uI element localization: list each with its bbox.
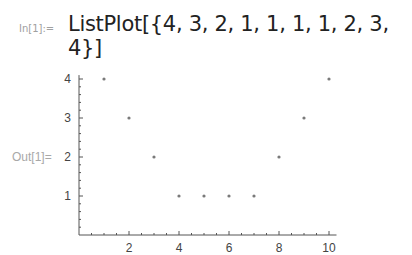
data-point [102,77,105,80]
x-tick-label: 6 [226,241,233,255]
data-point [252,194,255,197]
x-tick-label: 8 [276,241,283,255]
data-point [302,116,305,119]
data-point [127,116,130,119]
x-tick-label: 2 [126,241,133,255]
x-tick-label: 10 [322,241,336,255]
x-tick-label: 4 [176,241,183,255]
y-tick-label: 2 [64,150,71,164]
y-tick-label: 3 [64,111,71,125]
data-point [152,155,155,158]
data-point [327,77,330,80]
y-tick-label: 4 [64,72,71,86]
data-point [177,194,180,197]
list-plot: 2468101234 [0,0,412,255]
data-point [202,194,205,197]
y-tick-label: 1 [64,189,71,203]
data-point [227,194,230,197]
data-point [277,155,280,158]
